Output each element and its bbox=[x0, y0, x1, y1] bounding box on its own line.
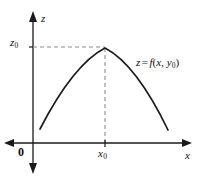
origin-label: 0 bbox=[18, 146, 24, 158]
equation-close-paren: ) bbox=[176, 56, 180, 68]
x-axis-right-arrow-icon bbox=[182, 139, 192, 147]
x-axis-left-arrow-icon bbox=[4, 139, 14, 147]
figure-canvas: z x 0 z0 x0 z=f(x, y0) bbox=[0, 0, 201, 183]
curve-equation-label: z=f(x, y0) bbox=[136, 57, 179, 69]
z0-tick-label: z0 bbox=[10, 37, 18, 49]
z-axis-down-arrow-icon bbox=[29, 163, 37, 174]
z0-subscript: 0 bbox=[14, 41, 18, 50]
z-axis-label: z bbox=[41, 13, 45, 24]
equation-arg-y: y bbox=[167, 56, 172, 68]
x0-tick-label: x0 bbox=[98, 148, 107, 160]
x-axis-label: x bbox=[185, 150, 190, 161]
z-axis-up-arrow-icon bbox=[29, 11, 37, 22]
equation-comma: , bbox=[161, 56, 164, 68]
x0-subscript: 0 bbox=[103, 152, 107, 161]
equation-equals: = bbox=[140, 56, 149, 68]
